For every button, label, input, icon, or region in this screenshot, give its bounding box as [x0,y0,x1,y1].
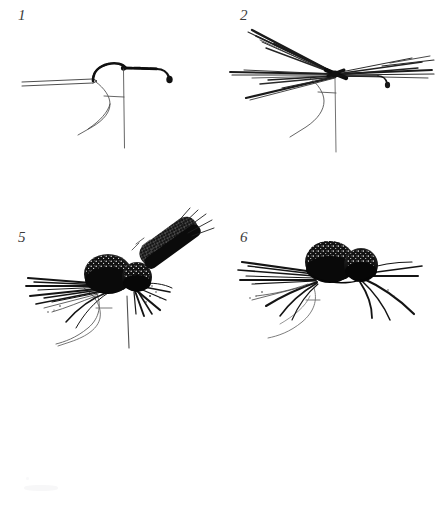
hook-bend [93,63,126,81]
figure-panel-1: 1 [0,0,222,170]
figure-2-drawing [222,0,443,170]
hair-wing [132,208,214,271]
fiber-bundle-rear-upper [248,30,333,74]
vise-jaws [58,288,112,346]
fiber-bundle-rear-lower [230,70,335,100]
figure-1-drawing [0,0,222,170]
vise-jaws [22,79,97,86]
hook-eye [157,69,173,83]
hook-eye [378,76,390,88]
figure-panel-6: 6 [222,200,443,370]
figure-6-drawing [222,200,443,370]
hook-bend [268,288,320,338]
bobbin-thread [127,296,129,348]
figure-panel-5: 5 [0,200,222,370]
legs-left [238,262,318,320]
figure-panel-2: 2 [222,0,443,170]
figure-5-drawing [0,200,222,370]
scan-artifact [24,485,58,491]
scan-speck [26,477,29,480]
hook-point [88,104,110,129]
thread-wraps [125,68,156,69]
bobbin-thread [124,69,125,148]
illustration-plate: 1 [0,0,443,519]
vise-support-arm [78,82,124,135]
fiber-bundle-forward [336,56,434,78]
bobbin-thread [335,78,336,152]
deer-hair-thorax [344,248,378,282]
